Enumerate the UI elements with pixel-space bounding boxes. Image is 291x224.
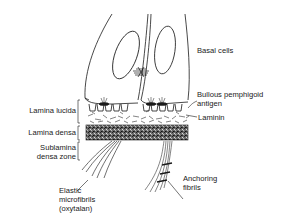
label-sublamina-line1: Sublamina [40,143,76,152]
label-laminin: Laminin [198,113,225,122]
label-elastic-line3: (oxytalan) [59,204,92,213]
label-elastic-line1: Elastic [59,186,81,195]
label-anchoring-line1: Anchoring [183,174,217,183]
elastic-microfibrils [82,141,121,178]
label-lamina-lucida: Lamina lucida [29,106,76,115]
label-bullous-pemphigoid-line2: antigen [197,99,222,108]
anchoring-fibrils [145,141,172,192]
leader-lines [77,101,197,199]
cell-base-left [85,98,138,111]
label-elastic-line2: microfibrils [59,195,95,204]
basal-cell-left [85,14,148,100]
label-lamina-densa: Lamina densa [28,128,76,137]
label-basal-cells: Basal cells [197,46,233,55]
lamina-densa-layer [86,125,188,140]
hemidesmosome-plaques [99,97,167,106]
basal-cell-right [141,14,189,100]
layer-brackets [78,100,80,160]
label-bullous-pemphigoid-line1: Bullous pemphigoid [197,90,263,99]
label-sublamina-line2: densa zone [37,152,76,161]
label-anchoring-line2: fibrils [183,183,201,192]
lamina-lucida-layer [88,110,189,123]
